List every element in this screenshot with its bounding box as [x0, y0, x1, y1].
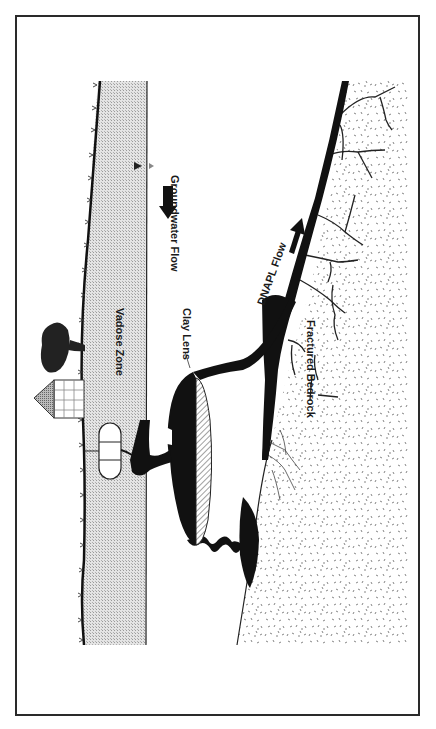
- label-fractured-bedrock: Fractured Bedrock: [305, 320, 317, 419]
- clay-lens: [196, 378, 212, 545]
- label-vadose-zone: Vadose Zone: [114, 308, 126, 376]
- fractured-bedrock: [237, 81, 408, 645]
- tree-icon: [41, 322, 85, 372]
- dnapl-diagram: Groundwater Flow Vadose Zone Clay Lens D…: [0, 0, 436, 729]
- house-icon: [34, 380, 84, 418]
- label-groundwater-flow: Groundwater Flow: [169, 175, 181, 272]
- label-clay-lens: Clay Lens: [181, 308, 193, 360]
